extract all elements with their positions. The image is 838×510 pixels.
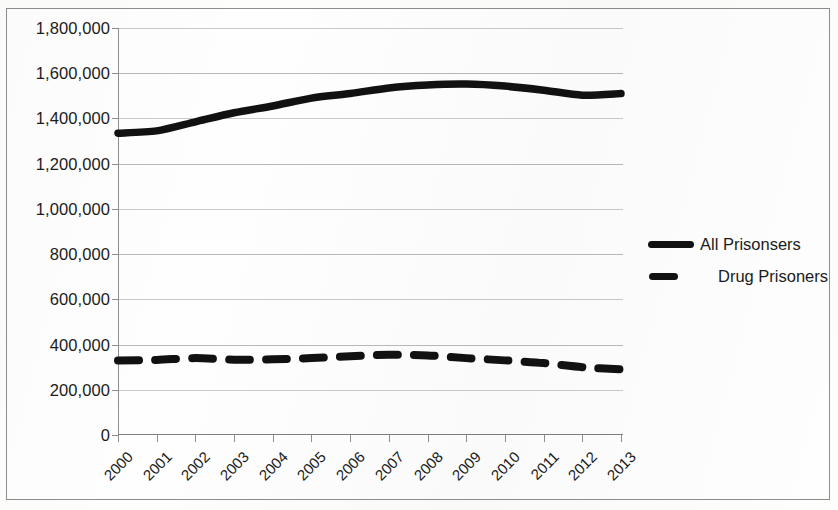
x-axis-tick (311, 435, 312, 442)
legend-item-drug-prisoners: Drug Prisoners (648, 260, 830, 292)
x-axis-tick (234, 435, 235, 442)
x-axis-tick (389, 435, 390, 442)
legend-label: All Prisonsers (700, 235, 801, 254)
y-axis-tick-label: 1,600,000 (6, 64, 110, 83)
chart-legend: All Prisonsers Drug Prisoners (648, 228, 830, 292)
series-line-all-prisoners (118, 84, 621, 133)
y-axis-tick-label: 1,000,000 (6, 199, 110, 218)
plot-area (118, 28, 623, 435)
y-axis-tick-label: 1,200,000 (6, 154, 110, 173)
x-axis-tick (621, 435, 622, 442)
x-axis-tick (466, 435, 467, 442)
x-axis-tick (544, 435, 545, 442)
legend-label: Drug Prisoners (718, 267, 828, 286)
solid-line-key-icon (648, 241, 696, 248)
y-axis-tick-label: 800,000 (6, 245, 110, 264)
x-axis-tick (118, 435, 119, 442)
y-axis-tick-label: 1,400,000 (6, 109, 110, 128)
series-layer (118, 28, 623, 435)
x-axis-tick (273, 435, 274, 442)
x-axis-tick (505, 435, 506, 442)
chart-figure: 0200,000400,000600,000800,0001,000,0001,… (0, 0, 838, 510)
y-axis-tick-label: 600,000 (6, 290, 110, 309)
x-axis-tick (195, 435, 196, 442)
x-axis-tick (350, 435, 351, 442)
series-line-drug-prisoners (118, 355, 621, 370)
y-axis-tick-label: 1,800,000 (6, 19, 110, 38)
x-axis-tick (157, 435, 158, 442)
y-axis-tick-label: 400,000 (6, 335, 110, 354)
y-axis-tick-label: 0 (6, 426, 110, 445)
x-axis-tick (582, 435, 583, 442)
y-axis-tick-label: 200,000 (6, 380, 110, 399)
x-axis-tick (428, 435, 429, 442)
legend-item-all-prisoners: All Prisonsers (648, 228, 830, 260)
dashed-line-key-icon (648, 273, 696, 280)
